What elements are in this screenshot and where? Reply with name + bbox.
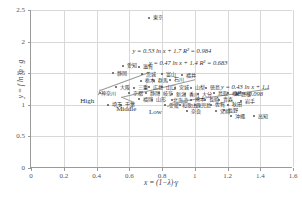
y-tick-label: 1.5	[25, 69, 34, 77]
trendline-equation: y = 0.53 ln x + 1.7	[133, 47, 182, 54]
data-point-label: 大阪	[120, 84, 130, 89]
data-point	[184, 93, 186, 95]
trendline-equation: y = 0.47 ln x + 1.4	[149, 59, 198, 66]
group-label-low: Low	[149, 108, 162, 116]
data-point	[112, 72, 114, 74]
data-point-label: 奈良	[191, 108, 201, 113]
trendline-r-squared: R² = 0.098	[235, 90, 270, 97]
data-point	[210, 104, 212, 106]
data-point	[174, 87, 176, 89]
data-point	[151, 99, 153, 101]
group-label-high: High	[80, 97, 94, 105]
data-point-label: 静岡	[117, 70, 127, 75]
data-point	[145, 92, 147, 94]
gridline-horizontal	[31, 105, 292, 106]
x-tick	[228, 168, 229, 171]
data-point-label: 山梨	[195, 85, 205, 90]
trendline-equation: y = 0.43 ln x + 1.1	[221, 83, 270, 90]
gridline-vertical	[64, 10, 65, 167]
x-tick	[129, 168, 130, 171]
x-tick	[293, 168, 294, 171]
scatter-chart: 東京愛知滋賀静岡茨城富山福井栃木群馬石川大阪三重広島山口宮城山梨徳島神奈川京都静…	[0, 0, 302, 198]
data-point-label: 茨城	[146, 71, 156, 76]
data-point-label: 福井	[186, 72, 196, 77]
data-point	[128, 92, 130, 94]
trendline-r-squared: R² = 0.984	[181, 47, 211, 54]
data-point-label: 高知	[258, 113, 268, 118]
data-point	[148, 86, 150, 88]
x-tick	[31, 168, 32, 171]
data-point	[141, 73, 143, 75]
data-point	[153, 80, 155, 82]
data-point	[148, 17, 150, 19]
data-point-label: 山形	[156, 97, 166, 102]
x-tick	[260, 168, 261, 171]
x-tick	[162, 168, 163, 171]
data-point	[169, 79, 171, 81]
data-point	[205, 87, 207, 89]
data-point-label: 石川	[174, 77, 184, 82]
gridline-horizontal	[31, 136, 292, 137]
data-point	[138, 98, 140, 100]
y-tick-label: 2.5	[25, 6, 34, 14]
gridline-horizontal	[31, 10, 292, 11]
data-point	[227, 104, 229, 106]
data-point	[140, 80, 142, 82]
y-tick-label: 0.5	[25, 132, 34, 140]
gridline-vertical	[97, 10, 98, 167]
data-point-label: 宮城	[179, 85, 189, 90]
data-point-label: 沖縄	[235, 113, 245, 118]
data-point	[161, 86, 163, 88]
data-point-label: 京都	[133, 90, 143, 95]
data-point	[161, 73, 163, 75]
trendline-r-squared: R² = 0.683	[198, 59, 228, 66]
data-point	[122, 65, 124, 67]
data-point	[115, 86, 117, 88]
data-point	[204, 99, 206, 101]
x-tick	[64, 168, 65, 171]
y-tick-label: 1	[25, 101, 29, 109]
data-point-label: 東京	[153, 15, 163, 20]
data-point	[215, 110, 217, 112]
data-point-label: 神奈川	[101, 90, 116, 95]
data-point	[190, 87, 192, 89]
data-point-label: 愛知	[127, 63, 137, 68]
data-point	[133, 87, 135, 89]
x-axis-label: x = (1−λ)·γ	[30, 178, 292, 187]
x-tick	[97, 168, 98, 171]
data-point-label: 佐賀	[215, 102, 225, 107]
data-point-label: 岩手	[245, 98, 255, 103]
data-point	[253, 115, 255, 117]
group-label-middle: Middle	[116, 105, 136, 113]
gridline-vertical	[293, 10, 294, 167]
y-axis-label-wrap: y = f ln m · g	[6, 0, 16, 158]
data-point	[171, 93, 173, 95]
data-point	[230, 115, 232, 117]
data-point-label: 宮崎	[220, 108, 230, 113]
data-point	[197, 93, 199, 95]
data-point	[190, 99, 192, 101]
data-point-label: 群馬	[158, 78, 168, 83]
data-point	[138, 66, 140, 68]
data-point	[213, 92, 215, 94]
y-tick-label: 2	[25, 38, 29, 46]
y-tick-label: 0	[25, 164, 29, 172]
data-point	[107, 104, 109, 106]
plot-area: 東京愛知滋賀静岡茨城富山福井栃木群馬石川大阪三重広島山口宮城山梨徳島神奈川京都静…	[30, 10, 292, 168]
data-point	[186, 110, 188, 112]
data-point	[158, 92, 160, 94]
y-axis-label: y = f ln m · g	[16, 39, 25, 119]
x-tick	[195, 168, 196, 171]
gridline-horizontal	[31, 42, 292, 43]
